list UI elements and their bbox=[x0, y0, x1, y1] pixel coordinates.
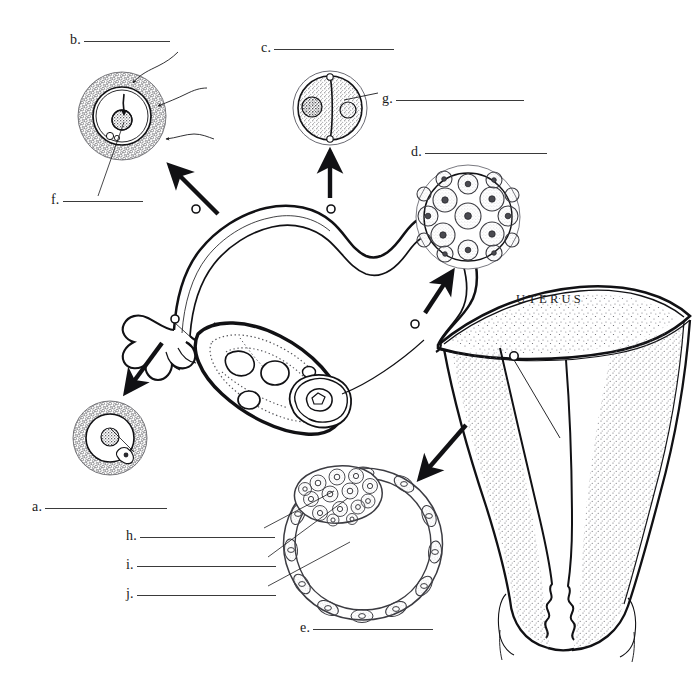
uterus-text: UTERUS bbox=[516, 292, 584, 307]
mature-graafian-follicle bbox=[78, 52, 214, 196]
label-c-blank[interactable] bbox=[274, 49, 394, 50]
label-e[interactable]: e. bbox=[300, 620, 433, 636]
label-j[interactable]: j. bbox=[126, 586, 276, 602]
label-h[interactable]: h. bbox=[126, 528, 275, 544]
uterus-body bbox=[438, 286, 690, 662]
label-b[interactable]: b. bbox=[70, 32, 170, 48]
label-f-letter: f. bbox=[51, 192, 60, 208]
ovum-marker-uterus bbox=[510, 352, 518, 360]
label-d[interactable]: d. bbox=[411, 144, 547, 160]
label-g[interactable]: g. bbox=[382, 91, 524, 107]
ovum-marker-isthmus bbox=[411, 320, 419, 328]
label-d-letter: d. bbox=[411, 144, 422, 160]
label-g-blank[interactable] bbox=[396, 100, 524, 101]
label-j-letter: j. bbox=[126, 586, 134, 602]
label-a[interactable]: a. bbox=[32, 499, 167, 515]
two-cell-zygote bbox=[293, 71, 378, 145]
blastocyst bbox=[264, 466, 443, 623]
label-h-letter: h. bbox=[126, 528, 137, 544]
morula bbox=[416, 165, 520, 269]
label-h-blank[interactable] bbox=[140, 537, 275, 538]
label-i-blank[interactable] bbox=[137, 566, 276, 567]
label-i[interactable]: i. bbox=[126, 557, 276, 573]
label-b-blank[interactable] bbox=[84, 41, 170, 42]
label-d-blank[interactable] bbox=[425, 153, 547, 154]
label-c[interactable]: c. bbox=[261, 40, 394, 56]
label-f[interactable]: f. bbox=[51, 192, 143, 208]
label-i-letter: i. bbox=[126, 557, 134, 573]
figure-canvas: UTERUS b. c. g. d. f. a. h. i. j. e. bbox=[0, 0, 696, 674]
ovum-marker-tube-mid bbox=[327, 205, 335, 213]
ovum-marker-ampulla bbox=[192, 205, 200, 213]
label-a-letter: a. bbox=[32, 499, 42, 515]
ovum-marker-fimbria bbox=[171, 315, 179, 323]
label-b-letter: b. bbox=[70, 32, 81, 48]
label-c-letter: c. bbox=[261, 40, 271, 56]
label-f-blank[interactable] bbox=[63, 201, 143, 202]
arrow-tube-to-morula bbox=[425, 272, 452, 313]
label-g-letter: g. bbox=[382, 91, 393, 107]
reproductive-system-illustration bbox=[0, 0, 696, 674]
ovulated-ovum bbox=[73, 401, 147, 475]
label-e-blank[interactable] bbox=[313, 629, 433, 630]
label-a-blank[interactable] bbox=[45, 508, 167, 509]
arrow-uterus-to-blastocyst bbox=[420, 425, 466, 478]
ovary bbox=[195, 323, 424, 434]
label-e-letter: e. bbox=[300, 620, 310, 636]
label-j-blank[interactable] bbox=[137, 595, 276, 596]
